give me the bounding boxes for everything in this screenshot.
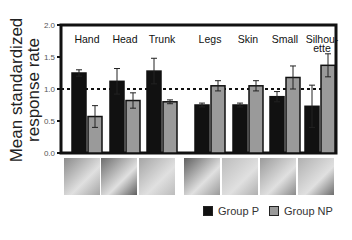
- thumbnail-trunk: [139, 158, 175, 195]
- bar-group-p: [233, 105, 247, 153]
- y-tick-label: 0.5: [44, 117, 56, 126]
- legend-item-group-p: Group P: [203, 205, 259, 217]
- bar-group-np: [211, 86, 225, 153]
- legend-swatch-group-p: [203, 206, 213, 216]
- category-label: ette: [313, 42, 331, 54]
- category-label: Legs: [199, 33, 222, 45]
- bar-group-p: [72, 73, 86, 153]
- thumbnail-hand: [64, 158, 100, 195]
- thumbnail-silhouette: [298, 158, 334, 195]
- category-label: Small: [272, 33, 298, 45]
- thumbnail-head: [101, 158, 137, 195]
- legend-swatch-group-np: [269, 206, 279, 216]
- bar-group-p: [195, 105, 209, 153]
- bar-group-np: [163, 102, 177, 153]
- category-label: Hand: [74, 33, 99, 45]
- thumbnail-legs: [184, 158, 220, 195]
- thumbnail-small: [260, 158, 296, 195]
- category-label: Trunk: [149, 33, 176, 45]
- bar-group-p: [270, 97, 284, 153]
- legend-label-group-p: Group P: [218, 205, 259, 217]
- y-tick-label: 0.0: [44, 149, 56, 158]
- y-tick-label: 1.5: [44, 53, 56, 62]
- legend: Group P Group NP: [203, 205, 343, 217]
- legend-label-group-np: Group NP: [284, 205, 333, 217]
- category-label: Skin: [238, 33, 259, 45]
- legend-item-group-np: Group NP: [269, 205, 333, 217]
- y-tick-label: 1.0: [44, 85, 56, 94]
- category-label: Head: [112, 33, 137, 45]
- bar-group-np: [321, 65, 335, 153]
- thumbnail-skin: [222, 158, 258, 195]
- bar-group-np: [249, 86, 263, 153]
- y-tick-label: 2.0: [44, 21, 56, 30]
